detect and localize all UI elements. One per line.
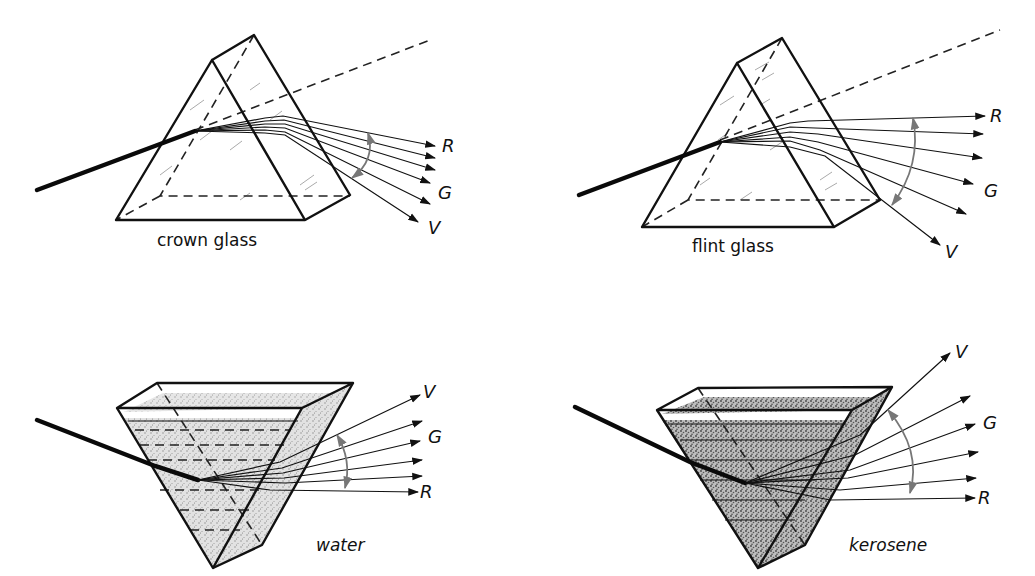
label-violet: V [945, 241, 959, 262]
incident-beam [37, 131, 195, 190]
panel-water: V G R water [37, 381, 442, 568]
label-violet: V [955, 341, 969, 362]
label-green: G [983, 412, 997, 433]
label-green: G [428, 426, 442, 447]
panel-kerosene: V G R kerosene [575, 341, 997, 568]
label-violet: V [428, 217, 442, 238]
material-label: flint glass [692, 236, 774, 256]
dispersed-rays [195, 116, 435, 222]
label-violet: V [423, 381, 437, 402]
material-label: kerosene [849, 535, 927, 555]
dispersion-diagram: R G V crown glass R G V flint glass [0, 0, 1035, 576]
label-green: G [984, 180, 998, 201]
material-label: water [316, 535, 365, 555]
label-red: R [420, 481, 433, 502]
label-green: G [438, 182, 452, 203]
incident-beam [579, 142, 720, 195]
material-label: crown glass [157, 230, 257, 250]
dispersed-rays [720, 116, 985, 245]
panel-crown-glass: R G V crown glass [37, 35, 455, 250]
label-red: R [990, 105, 1003, 126]
label-red: R [978, 487, 991, 508]
panel-flint-glass: R G V flint glass [579, 30, 1003, 262]
label-red: R [442, 135, 455, 156]
